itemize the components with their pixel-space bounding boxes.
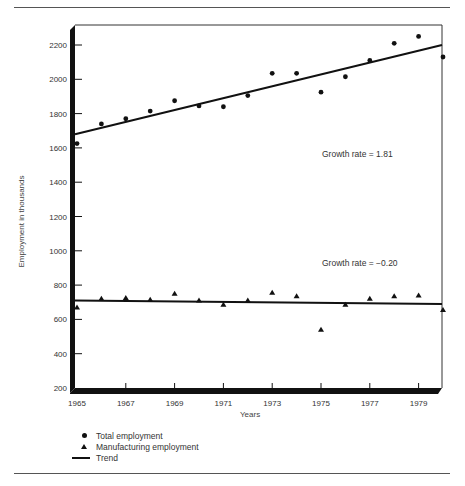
manufacturing-employment-point — [367, 296, 373, 301]
legend-item-total: Total employment — [72, 430, 199, 441]
x-tick-label: 1969 — [166, 399, 184, 408]
x-tick-label: 1967 — [117, 399, 135, 408]
manufacturing-employment-point — [440, 307, 446, 312]
manufacturing-employment-point — [294, 293, 300, 298]
total-employment-point — [294, 71, 299, 76]
total-employment-point — [392, 41, 397, 46]
growth-rate-annotation: Growth rate = −0.20 — [322, 258, 398, 268]
total-employment-point — [75, 141, 80, 146]
manufacturing-employment-point — [172, 291, 178, 296]
y-tick-label: 1400 — [49, 178, 67, 187]
manufacturing-employment-point — [147, 297, 153, 302]
y-tick-label: 1600 — [49, 144, 67, 153]
legend: Total employment Manufacturing employmen… — [72, 430, 199, 463]
total-employment-point — [172, 98, 177, 103]
total-employment-point — [367, 58, 372, 63]
total-employment-point — [221, 104, 226, 109]
trend-line — [75, 301, 442, 304]
total-employment-point — [416, 34, 421, 39]
y-tick-label: 1200 — [49, 213, 67, 222]
total-employment-point — [99, 121, 104, 126]
x-tick-label: 1979 — [410, 399, 428, 408]
y-tick-label: 400 — [54, 350, 68, 359]
manufacturing-employment-point — [416, 292, 422, 297]
x-axis-bar — [70, 388, 442, 394]
x-tick-label: 1975 — [312, 399, 330, 408]
legend-label: Manufacturing employment — [96, 442, 199, 452]
legend-label: Trend — [96, 453, 118, 463]
y-tick-label: 800 — [54, 281, 68, 290]
total-employment-point — [441, 55, 446, 60]
manufacturing-employment-point — [245, 298, 251, 303]
trend-line-icon — [72, 457, 90, 459]
y-tick-label: 1800 — [49, 110, 67, 119]
total-employment-point — [319, 90, 324, 95]
legend-item-trend: Trend — [72, 452, 199, 463]
total-employment-point — [197, 103, 202, 108]
x-axis-label: Years — [240, 410, 260, 419]
x-tick-label: 1977 — [361, 399, 379, 408]
total-employment-point — [148, 109, 153, 114]
manufacturing-employment-point — [269, 290, 275, 295]
y-tick-label: 1000 — [49, 247, 67, 256]
manufacturing-employment-point — [123, 295, 129, 300]
legend-label: Total employment — [96, 431, 163, 441]
manufacturing-employment-point — [196, 298, 202, 303]
total-employment-point — [270, 71, 275, 76]
manufacturing-employment-point — [318, 327, 324, 332]
y-axis-label: Employment in thousands — [17, 161, 26, 283]
x-tick-label: 1973 — [263, 399, 281, 408]
manufacturing-employment-point — [391, 293, 397, 298]
y-tick-label: 2000 — [49, 75, 67, 84]
growth-rate-annotation: Growth rate = 1.81 — [322, 149, 393, 159]
y-tick-label: 2200 — [49, 41, 67, 50]
total-employment-point — [123, 116, 128, 121]
circle-marker-icon — [82, 433, 87, 438]
x-tick-label: 1965 — [68, 399, 86, 408]
triangle-marker-icon — [81, 444, 87, 449]
y-axis-bar — [70, 25, 75, 393]
plot-frame — [75, 25, 442, 388]
y-tick-label: 200 — [54, 384, 68, 393]
legend-item-manufacturing: Manufacturing employment — [72, 441, 199, 452]
x-tick-label: 1971 — [215, 399, 233, 408]
manufacturing-employment-point — [98, 296, 104, 301]
bottom-rule — [14, 473, 450, 474]
y-tick-label: 600 — [54, 315, 68, 324]
chart-plot: 2004006008001000120014001600180020002200… — [0, 0, 465, 486]
trend-line — [75, 45, 442, 134]
total-employment-point — [245, 93, 250, 98]
total-employment-point — [343, 74, 348, 79]
